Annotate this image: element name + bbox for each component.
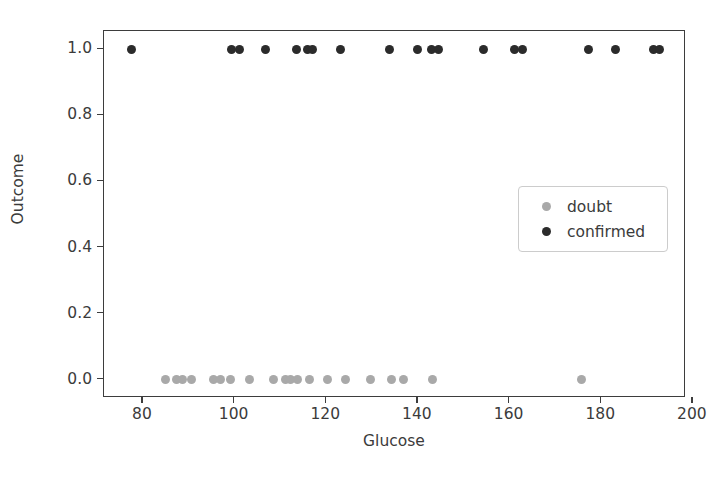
legend-marker-wrap	[525, 202, 567, 211]
data-point-confirmed	[655, 45, 664, 54]
data-point-doubt	[226, 375, 235, 384]
x-axis-tick	[141, 397, 142, 403]
data-point-doubt	[305, 375, 314, 384]
y-axis-tick	[97, 312, 103, 313]
x-axis-tick	[233, 397, 234, 403]
y-axis-tick	[97, 246, 103, 247]
x-axis-tick	[600, 397, 601, 403]
data-point-doubt	[216, 375, 225, 384]
y-axis-title: Outcome	[9, 109, 27, 269]
data-point-doubt	[399, 375, 408, 384]
data-point-confirmed	[235, 45, 244, 54]
x-axis-tick	[325, 397, 326, 403]
data-point-confirmed	[261, 45, 270, 54]
legend-marker-dot-icon	[542, 202, 551, 211]
x-axis-tick-label: 200	[677, 405, 707, 423]
data-point-confirmed	[584, 45, 593, 54]
data-point-doubt	[245, 375, 254, 384]
data-point-doubt	[387, 375, 396, 384]
legend-label: doubt	[567, 198, 612, 216]
data-point-confirmed	[308, 45, 317, 54]
data-point-doubt	[178, 375, 187, 384]
data-point-confirmed	[127, 45, 136, 54]
data-point-doubt	[577, 375, 586, 384]
legend-item-confirmed[interactable]: confirmed	[525, 219, 661, 244]
data-point-confirmed	[336, 45, 345, 54]
data-point-doubt	[293, 375, 302, 384]
data-point-confirmed	[413, 45, 422, 54]
data-point-confirmed	[479, 45, 488, 54]
y-axis-tick-label: 1.0	[67, 39, 92, 57]
data-point-confirmed	[292, 45, 301, 54]
y-axis-tick-label: 0.6	[67, 171, 92, 189]
x-axis-tick-label: 80	[132, 405, 152, 423]
data-point-confirmed	[611, 45, 620, 54]
x-axis-tick-label: 180	[585, 405, 615, 423]
data-point-doubt	[341, 375, 350, 384]
x-axis-title: Glucose	[103, 432, 685, 450]
legend-marker-dot-icon	[542, 227, 551, 236]
x-axis-tick	[691, 397, 692, 403]
y-axis-tick	[97, 180, 103, 181]
y-axis-tick-label: 0.2	[67, 304, 92, 322]
data-point-confirmed	[518, 45, 527, 54]
data-point-doubt	[187, 375, 196, 384]
y-axis-tick-label: 0.8	[67, 105, 92, 123]
data-point-confirmed	[434, 45, 443, 54]
figure-canvas: 0.00.20.40.60.81.0 Outcome Glucose doubt…	[0, 0, 717, 481]
data-point-doubt	[323, 375, 332, 384]
x-axis-tick-label: 140	[402, 405, 432, 423]
data-point-doubt	[269, 375, 278, 384]
legend-label: confirmed	[567, 223, 645, 241]
data-point-doubt	[366, 375, 375, 384]
data-point-confirmed	[385, 45, 394, 54]
legend[interactable]: doubtconfirmed	[518, 186, 668, 252]
x-axis-tick-label: 160	[494, 405, 524, 423]
data-point-doubt	[161, 375, 170, 384]
legend-item-doubt[interactable]: doubt	[525, 194, 661, 219]
y-axis-tick	[97, 48, 103, 49]
x-axis-tick	[416, 397, 417, 403]
x-axis-tick-label: 100	[219, 405, 249, 423]
y-axis-tick-label: 0.4	[67, 238, 92, 256]
y-axis-tick	[97, 114, 103, 115]
y-axis-tick-label: 0.0	[67, 370, 92, 388]
x-axis-tick-label: 120	[310, 405, 340, 423]
y-axis-tick	[97, 378, 103, 379]
data-point-doubt	[428, 375, 437, 384]
x-axis-tick	[508, 397, 509, 403]
legend-marker-wrap	[525, 227, 567, 236]
